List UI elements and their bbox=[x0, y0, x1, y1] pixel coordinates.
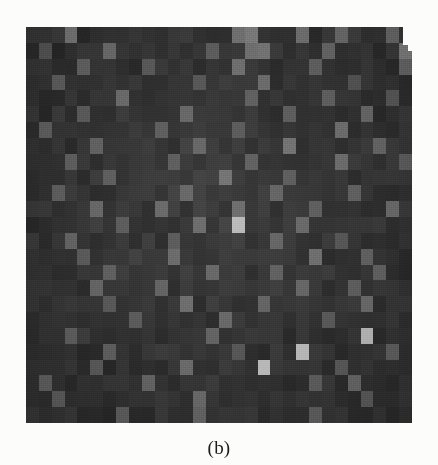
heatmap-cell bbox=[283, 407, 296, 423]
heatmap-cell bbox=[26, 360, 39, 376]
heatmap-cell bbox=[361, 296, 374, 312]
heatmap-cell bbox=[309, 106, 322, 122]
heatmap-cell bbox=[219, 201, 232, 217]
heatmap-cell bbox=[65, 170, 78, 186]
heatmap-cell bbox=[373, 170, 386, 186]
heatmap-cell bbox=[348, 233, 361, 249]
heatmap-cell bbox=[348, 312, 361, 328]
heatmap-cell bbox=[193, 217, 206, 233]
heatmap-cell bbox=[361, 407, 374, 423]
heatmap-cell bbox=[399, 312, 412, 328]
heatmap-cell bbox=[142, 265, 155, 281]
heatmap-cell bbox=[39, 265, 52, 281]
heatmap-cell bbox=[270, 312, 283, 328]
heatmap-cell bbox=[39, 43, 52, 59]
heatmap-cell bbox=[270, 170, 283, 186]
heatmap-cell bbox=[39, 138, 52, 154]
heatmap-cell bbox=[270, 106, 283, 122]
heatmap-cell bbox=[142, 106, 155, 122]
heatmap-cell bbox=[245, 154, 258, 170]
heatmap-cell bbox=[206, 106, 219, 122]
heatmap-cell bbox=[155, 360, 168, 376]
heatmap-cell bbox=[77, 328, 90, 344]
heatmap-cell bbox=[103, 27, 116, 43]
heatmap-cell bbox=[155, 265, 168, 281]
heatmap-cell bbox=[65, 27, 78, 43]
heatmap-cell bbox=[348, 296, 361, 312]
heatmap-cell bbox=[103, 43, 116, 59]
heatmap-cell bbox=[270, 185, 283, 201]
heatmap-cell bbox=[77, 27, 90, 43]
heatmap-cell bbox=[39, 217, 52, 233]
heatmap-cell bbox=[258, 280, 271, 296]
heatmap-cell bbox=[77, 217, 90, 233]
heatmap-cell bbox=[386, 217, 399, 233]
heatmap-cell bbox=[245, 233, 258, 249]
heatmap-cell bbox=[155, 280, 168, 296]
heatmap-cell bbox=[65, 312, 78, 328]
heatmap-cell bbox=[129, 360, 142, 376]
heatmap-cell bbox=[283, 217, 296, 233]
heatmap-cell bbox=[258, 296, 271, 312]
heatmap-cell bbox=[232, 75, 245, 91]
heatmap-cell bbox=[155, 43, 168, 59]
heatmap-cell bbox=[335, 407, 348, 423]
heatmap-cell bbox=[39, 233, 52, 249]
heatmap-cell bbox=[39, 75, 52, 91]
heatmap-cell bbox=[142, 27, 155, 43]
heatmap-cell bbox=[245, 391, 258, 407]
heatmap-cell bbox=[386, 170, 399, 186]
heatmap-cell bbox=[232, 344, 245, 360]
heatmap-cell bbox=[296, 233, 309, 249]
heatmap-cell bbox=[296, 27, 309, 43]
heatmap-cell bbox=[129, 407, 142, 423]
heatmap-cell bbox=[322, 312, 335, 328]
heatmap-cell bbox=[180, 217, 193, 233]
heatmap-cell bbox=[361, 106, 374, 122]
heatmap-cell bbox=[142, 296, 155, 312]
heatmap-cell bbox=[219, 27, 232, 43]
heatmap-cell bbox=[296, 170, 309, 186]
heatmap-cell bbox=[193, 233, 206, 249]
heatmap-cell bbox=[52, 375, 65, 391]
heatmap-cell bbox=[193, 122, 206, 138]
heatmap-cell bbox=[155, 233, 168, 249]
corner-notch bbox=[403, 27, 412, 45]
heatmap-cell bbox=[245, 265, 258, 281]
heatmap-cell bbox=[309, 122, 322, 138]
heatmap-cell bbox=[103, 233, 116, 249]
heatmap-cell bbox=[309, 328, 322, 344]
heatmap-cell bbox=[39, 106, 52, 122]
heatmap-cell bbox=[116, 233, 129, 249]
heatmap-cell bbox=[373, 344, 386, 360]
heatmap-cell bbox=[399, 375, 412, 391]
heatmap-cell bbox=[129, 265, 142, 281]
heatmap-cell bbox=[270, 154, 283, 170]
heatmap-cell bbox=[142, 75, 155, 91]
heatmap-cell bbox=[206, 233, 219, 249]
heatmap-cell bbox=[39, 312, 52, 328]
heatmap-cell bbox=[90, 43, 103, 59]
heatmap-cell bbox=[270, 391, 283, 407]
heatmap-cell bbox=[26, 201, 39, 217]
heatmap-cell bbox=[116, 407, 129, 423]
heatmap-cell bbox=[258, 217, 271, 233]
heatmap-cell bbox=[361, 90, 374, 106]
heatmap-cell bbox=[219, 407, 232, 423]
heatmap-cell bbox=[270, 201, 283, 217]
heatmap-cell bbox=[296, 265, 309, 281]
heatmap-cell bbox=[232, 59, 245, 75]
heatmap-cell bbox=[245, 185, 258, 201]
heatmap-cell bbox=[116, 170, 129, 186]
heatmap-cell bbox=[373, 138, 386, 154]
heatmap-cell bbox=[335, 312, 348, 328]
heatmap-cell bbox=[296, 391, 309, 407]
heatmap-cell bbox=[373, 122, 386, 138]
heatmap-cell bbox=[206, 27, 219, 43]
heatmap-cell bbox=[322, 217, 335, 233]
heatmap-cell bbox=[155, 75, 168, 91]
heatmap-cell bbox=[283, 344, 296, 360]
heatmap-cell bbox=[270, 249, 283, 265]
heatmap-cell bbox=[155, 185, 168, 201]
heatmap-cell bbox=[39, 328, 52, 344]
